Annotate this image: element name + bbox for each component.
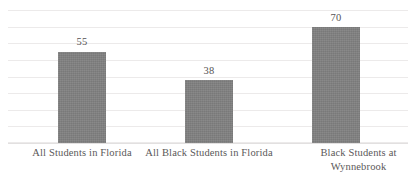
- bar-all-black-students-in-florida: [185, 80, 233, 143]
- value-label-bar-1: 55: [58, 36, 106, 48]
- value-label-bar-3: 70: [312, 12, 360, 24]
- bar-chart: 55 38 70 All Students in Florida All Bla…: [0, 0, 419, 186]
- plot-area: 55 38 70: [8, 10, 408, 143]
- bar-all-students-in-florida: [58, 52, 106, 143]
- category-axis: All Students in Florida All Black Studen…: [8, 146, 408, 186]
- axis-line: [8, 143, 408, 144]
- category-label-3: Black Students at Wynnebrook: [296, 146, 419, 174]
- bar-black-students-at-wynnebrook: [312, 27, 360, 143]
- value-label-bar-2: 38: [185, 65, 233, 77]
- gridline: [8, 10, 408, 11]
- category-label-2: All Black Students in Florida: [129, 146, 289, 160]
